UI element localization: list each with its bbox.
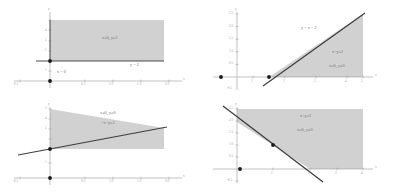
x-tick-label: 0.5 [81, 83, 85, 86]
point-marker [48, 79, 52, 83]
point-marker [271, 143, 275, 147]
x-tick-label: 4 [361, 172, 363, 175]
x-tick-label: 1 [251, 80, 253, 83]
point-marker [219, 75, 223, 79]
x-tick-label: 2.0 [165, 180, 169, 183]
y-axis-label: y [235, 8, 237, 11]
y-tick-label: 4 [45, 117, 47, 120]
line-label-vertical: x = 0 [57, 70, 66, 74]
panel-top-right-canvas [197, 0, 394, 97]
figure-grid: x≥0, y≥2 y = 2 x = 0 -0.5 0.5 1.0 1.5 2.… [0, 0, 394, 194]
x-tick-label: 3 [314, 80, 316, 83]
x-axis-label: x [375, 74, 377, 77]
x-tick-label: 3 [335, 172, 337, 175]
region-label-primary: x−y≤2 [332, 50, 343, 54]
x-tick-label: 1.5 [137, 180, 141, 183]
shaded-region [50, 20, 164, 61]
x-tick-label: 1.5 [137, 83, 141, 86]
x-tick-label: -0.5 [13, 180, 18, 183]
panel-bottom-left: x≥0, y≥0 −x+y≤2 -0.5 0.5 1.0 1.5 2.0 5 4… [0, 97, 197, 194]
panel-top-right: y = x − 2 x−y≤2 x≥0, y≥0 1 2 3 4 5 2.5 2… [197, 0, 394, 97]
x-tick-label: 1.0 [109, 180, 113, 183]
x-tick-label: 1 [271, 172, 273, 175]
y-tick-label: -0.5 [227, 179, 232, 182]
y-tick-label: 2.5 [229, 107, 233, 110]
region-label-secondary: x≥0, y≥0 [297, 128, 313, 132]
region-label: x≥0, y≥2 [102, 36, 118, 40]
y-tick-label: 1.5 [229, 37, 233, 40]
y-tick-label: 5 [45, 107, 47, 110]
x-axis-label: x [183, 78, 185, 81]
y-tick-label: 2.5 [229, 12, 233, 15]
y-tick-label: 2.0 [229, 25, 233, 28]
y-tick-label: 1.0 [229, 143, 233, 146]
panel-bottom-right: x+y≥2 x≥0, y≥0 1 2 3 4 2.5 2.0 1.5 1.0 0… [197, 97, 394, 194]
region-label-secondary: −x+y≤2 [101, 121, 115, 125]
x-tick-label: 4 [345, 80, 347, 83]
y-tick-label: 1.0 [229, 50, 233, 53]
line-label-horizontal: y = 2 [130, 63, 139, 67]
region-label-primary: x+y≥2 [300, 114, 311, 118]
x-tick-label: 1.0 [109, 83, 113, 86]
x-tick-label: 2 [308, 172, 310, 175]
y-tick-label: 1.5 [229, 131, 233, 134]
y-tick-label: 3 [45, 127, 47, 130]
point-marker [238, 167, 242, 171]
y-tick-label: 4 [45, 29, 47, 32]
point-marker [48, 59, 52, 63]
point-marker [48, 147, 52, 151]
y-tick-label: 0.5 [229, 62, 233, 65]
x-tick-label: 2 [283, 80, 285, 83]
x-axis-label: x [375, 166, 377, 169]
panel-top-left: x≥0, y≥2 y = 2 x = 0 -0.5 0.5 1.0 1.5 2.… [0, 0, 197, 97]
region-label-primary: x≥0, y≥0 [100, 111, 116, 115]
x-tick-label: 0.5 [81, 180, 85, 183]
point-marker [48, 176, 52, 180]
x-tick-label: 5 [361, 80, 363, 83]
y-tick-label: -0.5 [227, 87, 232, 90]
line-label-diagonal: y = x − 2 [301, 26, 317, 30]
shaded-region [269, 14, 363, 77]
y-tick-label: 0.5 [229, 155, 233, 158]
y-tick-label: 3 [45, 39, 47, 42]
y-axis-label: y [235, 103, 237, 106]
y-axis-label: y [48, 8, 50, 11]
x-axis-label: x [183, 175, 185, 178]
y-tick-label: 2 [45, 49, 47, 52]
x-tick-label: 2.0 [165, 83, 169, 86]
y-axis-label: y [48, 103, 50, 106]
region-label-secondary: x≥0, y≥0 [329, 64, 345, 68]
x-tick-label: -0.5 [13, 83, 18, 86]
y-tick-label: 2.0 [229, 119, 233, 122]
y-tick-label: 1 [45, 161, 47, 164]
y-tick-label: 1 [45, 69, 47, 72]
point-marker [267, 75, 271, 79]
